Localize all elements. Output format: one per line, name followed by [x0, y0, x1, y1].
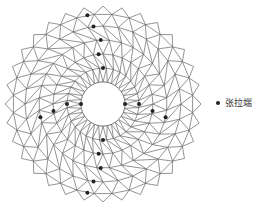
tension-end-marker-icon: [85, 13, 89, 17]
tension-end-marker-icon: [85, 191, 89, 195]
legend: 张拉端: [216, 96, 252, 109]
center-hole: [81, 82, 125, 126]
tension-end-marker-icon: [151, 109, 155, 113]
tension-end-marker-icon: [38, 115, 42, 119]
tension-end-marker-icon: [164, 115, 168, 119]
tension-end-marker-icon: [216, 101, 220, 105]
tension-end-marker-icon: [91, 25, 95, 29]
tension-end-marker-icon: [101, 66, 105, 70]
tension-end-marker-icon: [65, 102, 69, 106]
tension-end-marker-icon: [99, 166, 103, 170]
tension-end-marker-icon: [99, 38, 103, 42]
tension-end-marker-icon: [123, 102, 127, 106]
triangular-mesh-diagram: [0, 0, 210, 208]
legend-label: 张拉端: [225, 96, 252, 109]
tension-end-marker-icon: [79, 102, 83, 106]
tension-end-marker-icon: [91, 179, 95, 183]
tension-end-marker-icon: [97, 52, 101, 56]
tension-end-marker-icon: [97, 152, 101, 156]
tension-end-marker-icon: [101, 138, 105, 142]
tension-end-marker-icon: [51, 109, 55, 113]
tension-end-marker-icon: [137, 102, 141, 106]
